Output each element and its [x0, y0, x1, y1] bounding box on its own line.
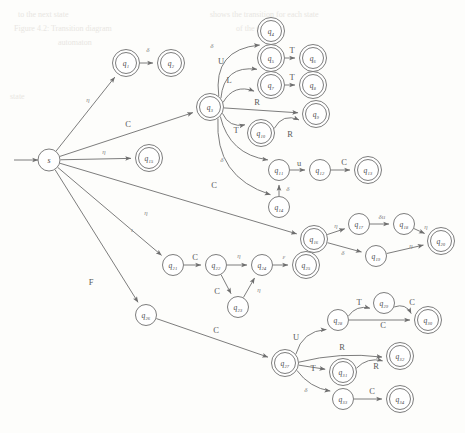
state-node-q5[interactable]: q₅: [258, 45, 285, 72]
state-node-q23[interactable]: q₂₃: [228, 297, 249, 318]
edge-label-q10-to-q9: R: [287, 129, 293, 139]
edge-label-q3-to-q4: δ: [210, 42, 214, 50]
state-node-q2[interactable]: q₂: [158, 50, 185, 77]
state-label: q₁₆: [310, 235, 319, 244]
state-node-q32[interactable]: q₃₂: [387, 343, 414, 370]
state-label: q₂₆: [142, 311, 151, 320]
state-node-q3[interactable]: q₃: [197, 94, 224, 121]
state-label: q₃₂: [396, 352, 405, 361]
state-node-q8[interactable]: q₈: [300, 72, 327, 99]
state-node-q10[interactable]: q₁₀: [248, 120, 275, 147]
state-label: q₁: [123, 59, 130, 68]
state-label: q₄: [268, 27, 275, 36]
state-label: q₃₃: [339, 395, 348, 404]
edge-label-q19-to-q20: η: [409, 242, 413, 250]
transition-edge-s-to-q16: [60, 163, 297, 234]
state-node-q13[interactable]: q₁₃: [355, 157, 382, 184]
state-node-s[interactable]: s: [38, 149, 60, 171]
transition-edge-q23-to-q24: [243, 278, 254, 297]
state-node-q19[interactable]: q₁₉: [366, 246, 387, 267]
transition-edge-q3-to-q10: [222, 113, 244, 125]
state-label: q₂: [168, 59, 175, 68]
state-node-q33[interactable]: q₃₃: [333, 389, 354, 410]
state-node-q4[interactable]: q₄: [258, 18, 285, 45]
edge-label-q11-to-q12: u: [297, 158, 302, 168]
transition-edge-q19-to-q20: [387, 245, 424, 253]
state-node-q22[interactable]: q₂₂: [206, 255, 227, 276]
edge-label-q33-to-q34: C: [369, 386, 375, 396]
state-node-q6[interactable]: q₆: [300, 45, 327, 72]
automaton-svg: to the next stateshows the transition fo…: [0, 0, 465, 433]
state-label: q₈: [310, 81, 317, 90]
edge-label-q3-to-q7: L: [226, 75, 231, 85]
state-label: q₃₄: [396, 395, 405, 404]
state-node-q21[interactable]: q₂₁: [163, 255, 184, 276]
state-label: s: [47, 156, 50, 165]
edge-label-q1-to-q2: δ: [146, 46, 150, 54]
edge-label-q3-to-q14: C: [211, 180, 217, 190]
state-label: q₂₅: [302, 261, 311, 270]
state-node-q27[interactable]: q₂₇: [272, 350, 299, 377]
state-node-q30[interactable]: q₃₀: [415, 307, 442, 334]
automaton-diagram-canvas: to the next stateshows the transition fo…: [0, 0, 465, 433]
node-layer: sq₁q₂q₃q₄q₅q₆q₇q₈q₉q₁₀q₁₁q₁₂q₁₃q₁₄q₁₅q₁₆…: [38, 18, 455, 413]
state-node-q31[interactable]: q₃₁: [330, 359, 357, 386]
state-node-q16[interactable]: q₁₆: [301, 226, 328, 253]
edge-label-q22-to-q23: C: [214, 286, 220, 296]
edge-label-layer: ηδCηηιFδULTTRTRδuCCδηδuηδηCηCηεCUTCCRTRδ…: [86, 42, 428, 396]
edge-label-q27-to-q33: δ: [304, 386, 308, 394]
state-node-q9[interactable]: q₉: [303, 101, 330, 128]
background-ghost-text: to the next state: [18, 10, 69, 19]
edge-label-q3-to-q5: U: [218, 56, 224, 66]
state-label: q₁₁: [275, 166, 284, 175]
state-node-q18[interactable]: q₁₈: [394, 214, 415, 235]
state-label: q₉: [313, 110, 320, 119]
state-label: q₂₈: [334, 316, 343, 325]
state-label: q₁₄: [275, 203, 284, 212]
state-label: q₁₂: [316, 166, 325, 175]
edge-label-s-to-q15: η: [102, 148, 106, 156]
transition-edge-q28-to-q29: [348, 307, 370, 316]
state-node-q17[interactable]: q₁₇: [349, 214, 370, 235]
edge-label-q27-to-q31: T: [310, 363, 316, 373]
edge-label-q21-to-q22: C: [192, 252, 198, 262]
edge-label-q28-to-q29: T: [356, 297, 362, 307]
transition-edge-s-to-q1: [56, 77, 115, 151]
transition-edge-q22-to-q23: [221, 275, 231, 294]
edge-label-q16-to-q19: δ: [341, 249, 345, 257]
edge-label-q3-to-q10: T: [233, 125, 239, 135]
state-node-q26[interactable]: q₂₆: [136, 305, 157, 326]
edge-label-q14-to-q11: δ: [286, 185, 290, 193]
state-label: q₁₅: [145, 154, 154, 163]
state-node-q11[interactable]: q₁₁: [269, 160, 290, 181]
transition-edge-s-to-q15: [61, 158, 132, 159]
state-node-q34[interactable]: q₃₄: [387, 386, 414, 413]
edge-label-q31-to-q32: R: [373, 361, 379, 371]
state-node-q25[interactable]: q₂₅: [293, 252, 320, 279]
transition-edge-q3-to-q7: [223, 89, 254, 102]
state-node-q29[interactable]: q₂₉: [374, 293, 395, 314]
state-node-q24[interactable]: q₂₄: [252, 255, 273, 276]
state-node-q12[interactable]: q₁₂: [310, 160, 331, 181]
transition-edge-q10-to-q9: [274, 118, 299, 129]
background-ghost-text: shows the transition for each state: [210, 10, 319, 19]
state-label: q₃₀: [424, 316, 433, 325]
state-label: q₃: [207, 103, 214, 112]
state-label: q₂₉: [380, 299, 389, 308]
state-node-q7[interactable]: q₇: [258, 72, 285, 99]
transition-edge-q18-to-q20: [414, 229, 425, 234]
edge-label-q27-to-q32: R: [339, 342, 345, 352]
state-label: q₂₀: [437, 237, 446, 246]
edge-label-q3-to-q9: R: [254, 97, 260, 107]
state-node-q15[interactable]: q₁₅: [136, 145, 163, 172]
state-node-q14[interactable]: q₁₄: [269, 197, 290, 218]
edge-label-q26-to-q27: C: [213, 325, 219, 335]
edge-label-q29-to-q30: C: [409, 297, 415, 307]
state-label: q₇: [268, 81, 275, 90]
edge-label-s-to-q1: η: [86, 96, 90, 104]
state-node-q20[interactable]: q₂₀: [428, 228, 455, 255]
state-node-q1[interactable]: q₁: [113, 50, 140, 77]
state-node-q28[interactable]: q₂₈: [328, 310, 349, 331]
edge-label-q7-to-q8: T: [289, 72, 295, 82]
state-label: q₂₄: [258, 261, 267, 270]
